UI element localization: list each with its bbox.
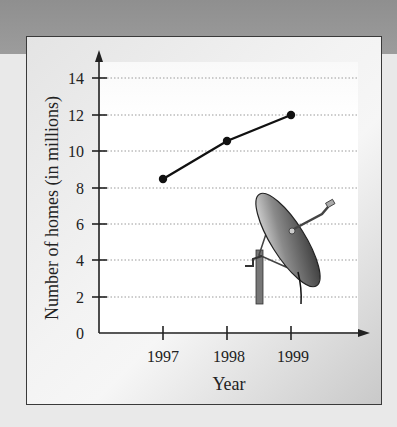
x-tick-labels: 1997 1998 1999 bbox=[147, 348, 309, 365]
svg-text:12: 12 bbox=[68, 107, 84, 124]
svg-text:10: 10 bbox=[68, 143, 84, 160]
chart-svg: 0 2 4 6 8 10 12 14 1997 1998 1999 Year N… bbox=[0, 0, 397, 427]
svg-text:8: 8 bbox=[76, 180, 84, 197]
svg-text:0: 0 bbox=[76, 325, 84, 342]
x-axis-label: Year bbox=[212, 374, 245, 394]
svg-text:4: 4 bbox=[76, 252, 84, 269]
y-axis-label: Number of homes (in millions) bbox=[42, 96, 63, 320]
svg-text:1999: 1999 bbox=[277, 348, 309, 365]
svg-text:14: 14 bbox=[68, 70, 84, 87]
data-point-1998 bbox=[223, 137, 231, 145]
data-point-1999 bbox=[287, 111, 295, 119]
data-series bbox=[159, 111, 295, 183]
y-tick-labels: 0 2 4 6 8 10 12 14 bbox=[68, 70, 84, 342]
svg-text:2: 2 bbox=[76, 289, 84, 306]
svg-text:1997: 1997 bbox=[147, 348, 179, 365]
svg-text:1998: 1998 bbox=[213, 348, 245, 365]
satellite-dish-icon bbox=[245, 185, 335, 304]
gridlines bbox=[100, 78, 358, 297]
svg-text:6: 6 bbox=[76, 216, 84, 233]
data-point-1997 bbox=[159, 175, 167, 183]
